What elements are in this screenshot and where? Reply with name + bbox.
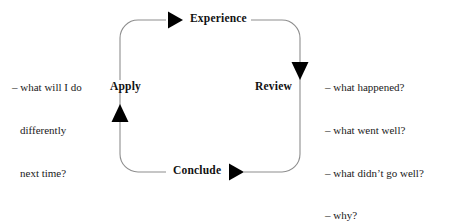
annotation-line: next time? — [12, 166, 82, 180]
annotation-apply: – what will I do differently next time? — [12, 52, 82, 194]
cycle-edge-top-left — [120, 20, 166, 38]
annotation-line: – why? — [325, 208, 424, 222]
annotation-conclude: – what can I learn from this? — [160, 196, 286, 224]
arrow-to-apply-icon — [112, 104, 129, 122]
arrow-to-review-icon — [292, 62, 309, 80]
annotation-line: – what will I do — [12, 80, 82, 94]
annotation-line: – what happened? — [325, 80, 424, 94]
node-label-apply: Apply — [107, 80, 144, 93]
node-label-conclude: Conclude — [168, 164, 226, 177]
annotation-line: – what went well? — [325, 123, 424, 137]
node-label-review: Review — [251, 80, 295, 93]
node-label-experience: Experience — [186, 12, 251, 25]
annotation-line: differently — [12, 123, 82, 137]
cycle-edge-right — [244, 38, 300, 172]
annotation-line: – what didn’t go well? — [325, 166, 424, 180]
arrow-to-conclude-icon — [229, 164, 244, 181]
arrow-to-experience-icon — [168, 12, 183, 29]
cycle-edge-top-right — [250, 20, 300, 38]
annotation-review: – what happened? – what went well? – wha… — [325, 52, 424, 224]
cycle-edge-bottom-left — [120, 154, 166, 172]
